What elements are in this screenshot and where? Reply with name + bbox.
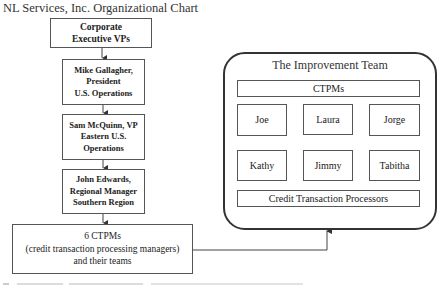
manager-name: Laura	[316, 114, 339, 126]
node-line: Southern Region	[70, 197, 137, 209]
node-john-edwards: John Edwards, Regional Manager Southern …	[62, 169, 145, 214]
node-line: 6 CTPMs	[26, 230, 180, 243]
node-line: President	[74, 76, 133, 88]
processor-name: Jimmy	[314, 160, 341, 172]
team-processor-kathy: Kathy	[237, 150, 287, 181]
improvement-team-title: The Improvement Team	[225, 58, 435, 73]
node-6-ctpms: 6 CTPMs (credit transaction processing m…	[12, 224, 193, 274]
team-manager-laura: Laura	[303, 104, 353, 135]
node-line: Operations	[69, 143, 138, 155]
node-line: (credit transaction processing managers)	[26, 243, 180, 256]
node-line: Corporate	[72, 21, 130, 33]
node-line: Sam McQuinn, VP	[69, 120, 138, 132]
node-corporate-executive-vps: Corporate Executive VPs	[50, 18, 152, 48]
team-manager-jorge: Jorge	[369, 104, 420, 136]
clipped-caption	[3, 281, 303, 285]
team-credit-processors-bar: Credit Transaction Processors	[237, 190, 420, 207]
node-line: U.S. Operations	[74, 88, 133, 100]
manager-name: Jorge	[384, 114, 405, 126]
team-ctpms-label: CTPMs	[313, 83, 344, 95]
node-line: John Edwards,	[70, 174, 137, 186]
node-sam-mcquinn: Sam McQuinn, VP Eastern U.S. Operations	[62, 114, 145, 160]
team-processor-tabitha: Tabitha	[369, 150, 420, 181]
node-line: Regional Manager	[70, 186, 137, 198]
credit-processors-label: Credit Transaction Processors	[269, 193, 388, 205]
processor-name: Tabitha	[380, 160, 410, 172]
node-line: Mike Gallagher,	[74, 65, 133, 77]
team-processor-jimmy: Jimmy	[303, 150, 353, 181]
node-mike-gallagher: Mike Gallagher, President U.S. Operation…	[62, 59, 145, 105]
processor-name: Kathy	[250, 160, 274, 172]
node-line: and their teams	[26, 255, 180, 268]
team-ctpms-bar: CTPMs	[237, 80, 420, 97]
manager-name: Joe	[255, 114, 268, 126]
node-line: Eastern U.S.	[69, 131, 138, 143]
node-line: Executive VPs	[72, 33, 130, 45]
team-manager-joe: Joe	[237, 104, 287, 136]
